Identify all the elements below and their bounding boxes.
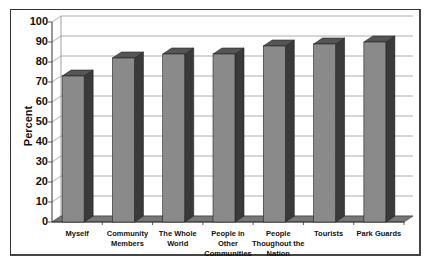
gridline-diagonal — [52, 116, 61, 122]
gridline-diagonal — [52, 96, 61, 102]
bar — [112, 58, 134, 222]
bar — [263, 46, 285, 222]
gridline-diagonal — [52, 176, 61, 182]
x-tick-label: Park Guards — [347, 229, 411, 239]
gridline-diagonal — [52, 76, 61, 82]
gridline-diagonal — [52, 156, 61, 162]
bar-side — [235, 48, 244, 222]
bar-side — [285, 40, 294, 222]
gridline-diagonal — [52, 56, 61, 62]
bar-side — [84, 70, 93, 222]
gridline-diagonal — [52, 136, 61, 142]
gridline-diagonal — [52, 16, 61, 22]
gridline-diagonal — [52, 196, 61, 202]
bar-side — [336, 38, 345, 222]
bar — [314, 44, 336, 222]
bar — [364, 42, 386, 222]
bar — [163, 54, 185, 222]
bar — [62, 76, 84, 222]
bar-side — [386, 36, 395, 222]
gridline-diagonal — [52, 36, 61, 42]
bar — [213, 54, 235, 222]
bar-side — [185, 48, 194, 222]
bar-chart-plot — [0, 0, 431, 266]
bar-side — [134, 52, 143, 222]
